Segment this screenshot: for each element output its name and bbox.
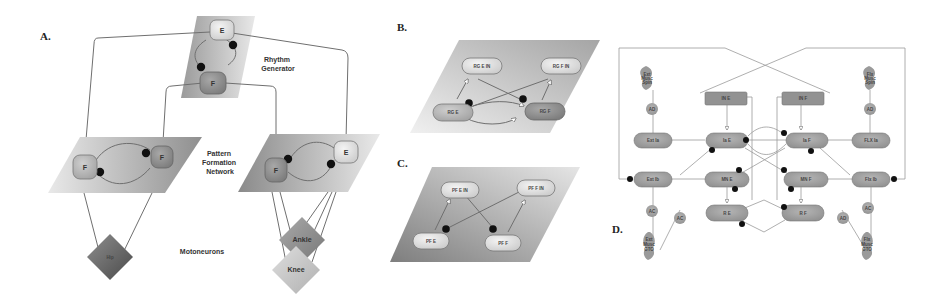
node-flx-ib-label: Flx Ib — [865, 177, 877, 182]
figure-canvas: A. E F Rhythm Generator F F P — [0, 0, 945, 306]
pf-right-node-e-label: E — [344, 149, 349, 156]
node-ext-ia-label: Ext Ia — [647, 138, 660, 143]
svg-text:AD: AD — [649, 107, 656, 112]
panel-c-label: C. — [397, 157, 408, 169]
pattern-formation-label: Pattern Formation Network — [202, 150, 238, 175]
node-mn-e-label: MN E — [721, 177, 732, 182]
panel-d: D. Ext Musc Spin Flx Musc Spin AD AD IN … — [612, 48, 905, 260]
inhibitory-synapse — [627, 176, 633, 182]
inhibitory-synapse — [519, 95, 527, 103]
node-rg-e-in-label: RG E IN — [474, 64, 491, 69]
inhibitory-synapse — [442, 225, 450, 233]
inhibitory-synapse — [142, 149, 150, 157]
node-r-e-label: R E — [723, 211, 731, 216]
inhibitory-synapse — [739, 221, 745, 227]
svg-text:AC: AC — [865, 206, 872, 211]
node-ia-f-label: Ia F — [803, 138, 811, 143]
inhibitory-synapse — [736, 167, 742, 173]
svg-text:AC: AC — [649, 209, 656, 214]
node-pf-e-in-label: PF E IN — [452, 188, 468, 193]
node-r-f-label: R F — [799, 211, 807, 216]
motoneuron-knee-label: Knee — [287, 266, 304, 273]
panel-b: B. RG E IN RG F IN RG E RG F — [397, 21, 600, 133]
node-flx-ia-label: FLX Ia — [864, 138, 878, 143]
node-in-f-label: IN F — [799, 96, 808, 101]
node-rg-f-label: RG F — [540, 109, 551, 114]
inhibitory-synapse — [891, 176, 897, 182]
rhythm-generator-label: Rhythm Generator — [261, 56, 295, 72]
svg-text:GTO: GTO — [644, 247, 654, 252]
node-mn-f-label: MN F — [801, 177, 812, 182]
pattern-formation-plane-left — [48, 137, 202, 193]
svg-text:Spin: Spin — [865, 80, 875, 85]
node-ia-e-label: Ia E — [723, 138, 731, 143]
node-pf-f-label: PF F — [498, 241, 508, 246]
motoneuron-hip-label: Hip — [106, 255, 114, 260]
muscle-gto-bottom-right: Flx Musc GTO — [861, 232, 873, 260]
inhibitory-synapse — [781, 204, 787, 210]
panel-c: C. PF E IN PF F IN PF E PF F — [390, 157, 580, 262]
frame-right — [700, 48, 905, 179]
panel-b-label: B. — [397, 21, 407, 33]
inhibitory-synapse — [808, 148, 814, 154]
pf-right-node-f-label: F — [274, 167, 279, 174]
svg-text:Spin: Spin — [642, 80, 652, 85]
node-rg-e-label: RG E — [447, 110, 458, 115]
inhibitory-synapse — [732, 186, 738, 192]
inhibitory-synapse — [788, 186, 794, 192]
panel-a-label: A. — [40, 30, 51, 42]
panel-d-label: D. — [612, 223, 623, 235]
motoneurons-label: Motoneurons — [180, 248, 224, 255]
inhibitory-synapse — [197, 63, 205, 71]
svg-text:AD: AD — [867, 107, 874, 112]
motoneuron-ankle-label: Ankle — [292, 236, 311, 243]
muscle-spindle-top-right: Flx Musc Spin — [863, 66, 876, 90]
muscle-spindle-top-left: Ext Musc Spin — [640, 66, 653, 90]
pf-left-node-f2-label: F — [160, 154, 165, 161]
node-in-e-label: IN E — [722, 96, 731, 101]
rg-node-e-label: E — [220, 27, 225, 34]
inhibitory-synapse — [489, 225, 497, 233]
node-pf-f-in-label: PF F IN — [528, 186, 544, 191]
node-ext-ib-label: Ext Ib — [647, 177, 660, 182]
svg-text:GTO: GTO — [862, 247, 872, 252]
node-rg-f-in-label: RG F IN — [553, 64, 570, 69]
inhibitory-synapse — [781, 130, 787, 136]
svg-text:AC: AC — [677, 216, 684, 221]
ia-diagonal-connections — [680, 148, 850, 175]
inhibitory-synapse — [781, 167, 787, 173]
panel-a: A. E F Rhythm Generator F F P — [40, 16, 380, 294]
inhibitory-synapse — [229, 41, 237, 49]
inhibitory-synapse — [709, 147, 715, 153]
in-descending-lines — [746, 97, 783, 200]
pattern-formation-plane-right — [238, 134, 380, 192]
pf-left-node-f1-label: F — [83, 164, 88, 171]
inhibitory-synapse — [327, 160, 335, 168]
inhibitory-synapse — [743, 137, 749, 143]
edge-rg-e-to-pf-right-e — [232, 33, 348, 140]
svg-text:AD: AD — [840, 216, 847, 221]
spindle-connections — [653, 90, 870, 140]
rg-node-f-label: F — [211, 80, 216, 87]
muscle-gto-bottom-left: Ext Musc GTO — [643, 232, 655, 260]
node-pf-e-label: PF E — [426, 239, 436, 244]
